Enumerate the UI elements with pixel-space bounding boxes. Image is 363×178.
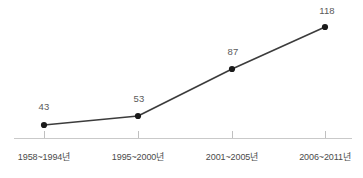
series-line bbox=[44, 27, 325, 125]
line-chart: 435387118 1958~1994년1995~2000년2001~2005년… bbox=[0, 0, 363, 178]
data-value-label-0: 43 bbox=[39, 102, 50, 112]
data-point-marker-3[interactable] bbox=[322, 24, 328, 30]
data-point-markers bbox=[41, 24, 328, 128]
x-axis-ticks bbox=[45, 131, 326, 138]
x-axis-label-1: 1995~2000년 bbox=[112, 153, 164, 162]
data-point-marker-1[interactable] bbox=[135, 113, 141, 119]
x-axis-label-3: 2006~2011년 bbox=[299, 153, 351, 162]
data-value-label-3: 118 bbox=[319, 6, 334, 16]
x-axis-label-0: 1958~1994년 bbox=[18, 153, 70, 162]
data-value-label-2: 87 bbox=[228, 47, 239, 57]
data-line-series bbox=[44, 27, 325, 125]
data-point-marker-2[interactable] bbox=[229, 66, 235, 72]
x-axis-label-2: 2001~2005년 bbox=[206, 153, 258, 162]
data-point-marker-0[interactable] bbox=[41, 122, 47, 128]
data-value-label-1: 53 bbox=[134, 94, 145, 104]
